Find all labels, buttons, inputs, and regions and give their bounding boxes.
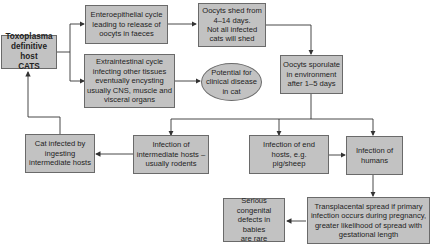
node-label: Cat infected by ingesting intermediate h… xyxy=(29,139,91,167)
node-label: Extraintestinal cycle infecting other ti… xyxy=(87,57,172,104)
node-end-hosts: Infection of end hosts, e.g. pig/sheep xyxy=(249,135,329,174)
node-oocyts-sporulate: Oocyts sporulate in environment after 1–… xyxy=(280,55,343,94)
node-label: Infection of humans xyxy=(356,146,393,165)
node-label: Infection of end hosts, e.g. pig/sheep xyxy=(263,140,315,168)
node-oocyts-shed: Oocyts shed from 4–14 days. Not all infe… xyxy=(198,3,266,47)
node-label: Enteroepithelial cycle leading to releas… xyxy=(91,10,163,38)
node-toxoplasma-cats: Toxoplasma definitive host CATS xyxy=(1,35,57,69)
node-label: Toxoplasma definitive host CATS xyxy=(4,32,54,72)
node-potential-clinical-disease: Potential for clinical disease in cat xyxy=(201,63,262,101)
node-transplacental-spread: Transplacental spread if primary infecti… xyxy=(307,197,430,244)
node-label: Oocyts sporulate in environment after 1–… xyxy=(283,60,340,88)
node-cat-infected: Cat infected by ingesting intermediate h… xyxy=(25,134,95,173)
node-label: Infection of intermediate hosts – usuall… xyxy=(137,140,205,168)
node-enteroepithelial-cycle: Enteroepithelial cycle leading to releas… xyxy=(85,5,168,44)
node-intermediate-hosts: Infection of intermediate hosts – usuall… xyxy=(133,135,209,174)
node-label: Potential for clinical disease in cat xyxy=(206,68,257,96)
node-extraintestinal-cycle: Extraintestinal cycle infecting other ti… xyxy=(84,54,175,108)
node-congenital-defects: Serious congenital defects in babies are… xyxy=(223,198,285,242)
node-label: Oocyts shed from 4–14 days. Not all infe… xyxy=(202,6,262,44)
node-infection-humans: Infection of humans xyxy=(346,136,403,175)
node-label: Transplacental spread if primary infecti… xyxy=(311,202,426,240)
node-label: Serious congenital defects in babies are… xyxy=(226,196,282,243)
